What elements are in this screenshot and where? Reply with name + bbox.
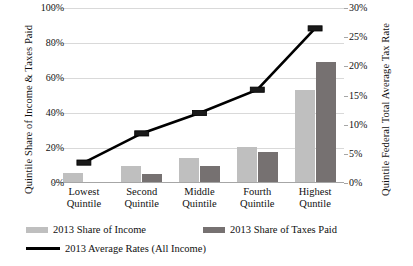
line-data-point-marker bbox=[250, 87, 264, 92]
line-data-point-marker bbox=[77, 160, 91, 165]
legend-item-average-rates: 2013 Average Rates (All Income) bbox=[26, 243, 206, 254]
y-axis-right-tickmark bbox=[344, 183, 348, 184]
legend-row-2: 2013 Average Rates (All Income) bbox=[26, 241, 406, 258]
legend-swatch-taxes-icon bbox=[203, 227, 225, 233]
y-axis-left-tickmark bbox=[51, 8, 55, 9]
y-axis-right-tickmark bbox=[344, 37, 348, 38]
y-axis-left-tickmark bbox=[51, 183, 55, 184]
y-axis-right-tick-label: 15% bbox=[349, 91, 389, 101]
x-axis-category-label: HighestQuntile bbox=[278, 186, 352, 210]
x-axis-category-label-line: Quntile bbox=[278, 198, 352, 210]
chart-legend: 2013 Share of Income 2013 Share of Taxes… bbox=[26, 224, 406, 258]
y-axis-right-tick-label: 25% bbox=[349, 32, 389, 42]
legend-label-share-of-income: 2013 Share of Income bbox=[53, 224, 146, 235]
chart-container: Quintile Share of Income & Taxes Paid Qu… bbox=[0, 0, 413, 266]
x-axis-category-label-line: Highest bbox=[278, 186, 352, 198]
line-series-2013-average-rates bbox=[55, 8, 344, 183]
y-axis-left-tick-label: 40% bbox=[24, 108, 64, 118]
y-axis-right-title: Quintile Federal Total Average Tax Rate bbox=[380, 22, 391, 198]
y-axis-right-tickmark bbox=[344, 66, 348, 67]
y-axis-left-tick-label: 100% bbox=[24, 3, 64, 13]
y-axis-left-tick-label: 80% bbox=[24, 38, 64, 48]
legend-swatch-line-icon bbox=[26, 247, 60, 250]
y-axis-right-tickmark bbox=[344, 154, 348, 155]
line-data-point-marker bbox=[193, 110, 207, 115]
legend-item-share-of-income: 2013 Share of Income bbox=[26, 224, 146, 235]
y-axis-right-tick-label: 0% bbox=[349, 178, 389, 188]
y-axis-left-tickmark bbox=[51, 113, 55, 114]
y-axis-right-tickmark bbox=[344, 8, 348, 9]
legend-label-average-rates: 2013 Average Rates (All Income) bbox=[65, 243, 206, 254]
legend-item-share-of-taxes-paid: 2013 Share of Taxes Paid bbox=[203, 224, 337, 235]
line-data-point-marker bbox=[135, 131, 149, 136]
y-axis-left-tickmark bbox=[51, 78, 55, 79]
legend-swatch-income-icon bbox=[26, 227, 48, 233]
y-axis-right-tick-label: 20% bbox=[349, 61, 389, 71]
y-axis-left-tick-label: 20% bbox=[24, 143, 64, 153]
x-axis-line bbox=[55, 182, 344, 183]
plot-area bbox=[55, 8, 344, 183]
y-axis-right-tick-label: 30% bbox=[349, 3, 389, 13]
y-axis-right-tick-label: 5% bbox=[349, 149, 389, 159]
y-axis-right-tickmark bbox=[344, 96, 348, 97]
y-axis-right-tickmark bbox=[344, 125, 348, 126]
legend-row-1: 2013 Share of Income 2013 Share of Taxes… bbox=[26, 224, 406, 241]
y-axis-right-tick-label: 10% bbox=[349, 120, 389, 130]
line-data-point-marker bbox=[308, 26, 322, 31]
legend-label-share-of-taxes-paid: 2013 Share of Taxes Paid bbox=[230, 224, 337, 235]
y-axis-left-tick-label: 60% bbox=[24, 73, 64, 83]
y-axis-left-tickmark bbox=[51, 43, 55, 44]
y-axis-left-tickmark bbox=[51, 148, 55, 149]
